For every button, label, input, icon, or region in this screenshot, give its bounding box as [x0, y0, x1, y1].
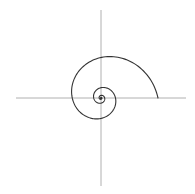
- diagram-canvas: [0, 0, 195, 194]
- spiral-diagram: [0, 0, 195, 194]
- logarithmic-spiral-curve: [72, 57, 158, 119]
